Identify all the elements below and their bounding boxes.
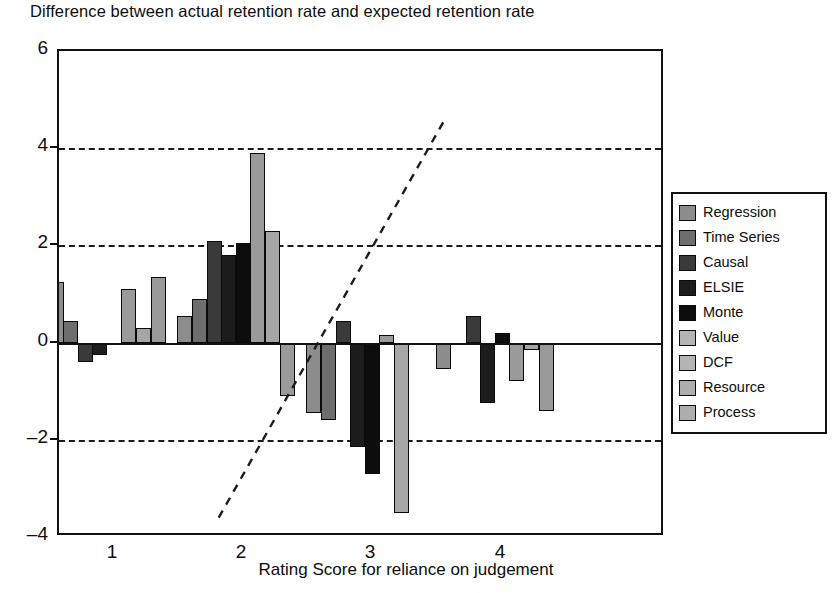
legend-swatch-icon [679, 305, 696, 321]
gridline-2 [59, 245, 661, 247]
bar [306, 343, 321, 413]
trend-line [59, 51, 661, 533]
y-tick-mark [50, 146, 59, 148]
legend-item-label: ELSIE [703, 280, 744, 295]
plot-area [57, 49, 663, 535]
bar [207, 241, 222, 343]
legend-item-label: Regression [703, 205, 776, 220]
bar [466, 316, 481, 343]
legend-item: DCF [679, 350, 820, 375]
legend-swatch-icon [679, 330, 696, 346]
bar [350, 343, 365, 447]
bar [121, 289, 136, 342]
bar [365, 343, 380, 474]
bar [321, 343, 336, 421]
legend-item-label: Causal [703, 255, 748, 270]
legend-swatch-icon [679, 380, 696, 396]
legend-swatch-icon [679, 355, 696, 371]
legend-item: Value [679, 325, 820, 350]
y-tick-label: –2 [2, 426, 48, 448]
y-tick-label: 2 [2, 231, 48, 253]
legend-item-label: DCF [703, 355, 733, 370]
bar [436, 343, 451, 370]
bar [539, 343, 554, 411]
legend-item-label: Monte [703, 305, 743, 320]
legend-swatch-icon [679, 255, 696, 271]
legend-item: Time Series [679, 225, 820, 250]
bar [480, 343, 495, 404]
bar [495, 333, 510, 343]
x-axis-title: Rating Score for reliance on judgement [46, 560, 766, 580]
bar [250, 153, 265, 343]
y-tick-mark [50, 341, 59, 343]
gridline-4 [59, 148, 661, 150]
legend-item: Causal [679, 250, 820, 275]
legend-swatch-icon [679, 280, 696, 296]
y-tick-mark [50, 243, 59, 245]
bar [336, 321, 351, 343]
legend-item: Process [679, 400, 820, 425]
bar [509, 343, 524, 382]
bar [280, 343, 295, 396]
zero-axis-line [59, 343, 661, 345]
legend-item: Regression [679, 200, 820, 225]
y-tick-label: –4 [2, 523, 48, 545]
legend-item-label: Value [703, 330, 739, 345]
legend-item: ELSIE [679, 275, 820, 300]
y-tick-label: 0 [2, 329, 48, 351]
plot-inner [59, 51, 661, 533]
y-tick-label: 4 [2, 134, 48, 156]
legend-item: Monte [679, 300, 820, 325]
legend-item-label: Process [703, 405, 755, 420]
y-tick-mark [50, 438, 59, 440]
legend: RegressionTime SeriesCausalELSIEMonteVal… [671, 192, 827, 434]
legend-item-label: Resource [703, 380, 765, 395]
bar [192, 299, 207, 343]
bar [177, 316, 192, 343]
bar [394, 343, 409, 513]
bar [63, 321, 78, 343]
bar [78, 343, 93, 362]
bar [221, 255, 236, 342]
legend-swatch-icon [679, 230, 696, 246]
bar [379, 335, 394, 342]
chart-title: Difference between actual retention rate… [30, 2, 535, 21]
bar [265, 231, 280, 343]
bar [236, 243, 251, 343]
legend-swatch-icon [679, 205, 696, 221]
legend-item: Resource [679, 375, 820, 400]
chart-page: Difference between actual retention rate… [0, 0, 833, 593]
legend-swatch-icon [679, 405, 696, 421]
legend-item-label: Time Series [703, 230, 780, 245]
bar [151, 277, 166, 343]
bar [136, 328, 151, 343]
y-tick-label: 6 [2, 37, 48, 59]
